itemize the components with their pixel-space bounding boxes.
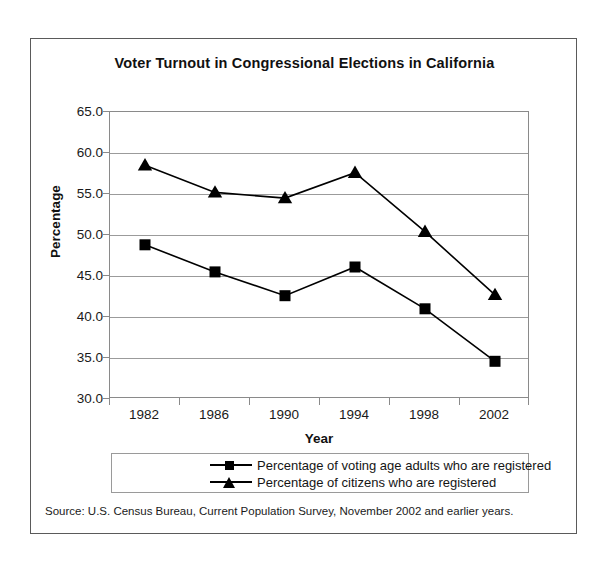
data-point-triangle	[418, 225, 432, 237]
data-point-square	[280, 290, 291, 301]
series-line	[145, 245, 495, 361]
x-tick-mark	[109, 398, 110, 405]
y-tick-label: 60.0	[41, 145, 103, 160]
y-tick-label: 35.0	[41, 350, 103, 365]
x-tick-mark	[179, 398, 180, 405]
x-tick-mark	[389, 398, 390, 405]
legend-item-label: Percentage of citizens who are registere…	[257, 475, 496, 490]
y-axis-tick-labels: 65.060.055.050.045.040.035.030.0	[37, 111, 103, 398]
y-tick-label: 65.0	[41, 104, 103, 119]
data-point-square	[210, 266, 221, 277]
legend-item-label: Percentage of voting age adults who are …	[257, 458, 551, 473]
x-tick-label: 1994	[319, 407, 389, 422]
data-point-square	[140, 239, 151, 250]
x-axis-tick-labels: 198219861990199419982002	[109, 407, 529, 427]
y-tick-label: 45.0	[41, 268, 103, 283]
figure-frame: Voter Turnout in Congressional Elections…	[30, 38, 577, 534]
y-tick-label: 50.0	[41, 227, 103, 242]
triangle-marker-icon	[210, 475, 252, 489]
square-marker-icon	[210, 458, 252, 472]
data-point-triangle	[208, 185, 222, 197]
x-tick-label: 2002	[459, 407, 529, 422]
data-point-square	[420, 303, 431, 314]
legend-item-citizens: Percentage of citizens who are registere…	[210, 473, 496, 491]
y-tick-label: 40.0	[41, 309, 103, 324]
page-top-margin	[0, 0, 604, 34]
data-point-triangle	[348, 166, 362, 178]
legend: Percentage of voting age adults who are …	[111, 453, 529, 493]
y-tick-label: 30.0	[41, 391, 103, 406]
x-tick-label: 1986	[179, 407, 249, 422]
x-tick-mark	[319, 398, 320, 405]
data-point-square	[490, 356, 501, 367]
legend-item-voting-age-adults: Percentage of voting age adults who are …	[210, 456, 551, 474]
x-axis-title: Year	[109, 431, 529, 446]
x-tick-mark	[249, 398, 250, 405]
x-tick-mark	[528, 398, 529, 405]
series-overlay	[110, 112, 530, 399]
plot-area	[109, 111, 529, 398]
y-tick-label: 55.0	[41, 186, 103, 201]
x-tick-mark	[459, 398, 460, 405]
data-point-square	[350, 262, 361, 273]
x-tick-label: 1982	[109, 407, 179, 422]
x-tick-label: 1990	[249, 407, 319, 422]
x-tick-label: 1998	[389, 407, 459, 422]
x-axis-tick-marks	[109, 398, 529, 405]
data-point-triangle	[138, 158, 152, 170]
source-note: Source: U.S. Census Bureau, Current Popu…	[45, 505, 513, 517]
series-line	[145, 165, 495, 295]
chart-title: Voter Turnout in Congressional Elections…	[31, 55, 578, 71]
